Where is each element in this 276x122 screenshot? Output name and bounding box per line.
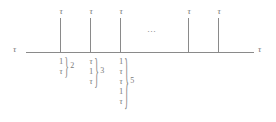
tick-mark-1	[60, 18, 61, 53]
group-3-count: 3	[100, 67, 104, 75]
group-3-symbol-1: τ	[88, 56, 94, 66]
group-3-brace-glyph: }	[94, 53, 99, 90]
timeline-figure: τ τ ⋯ τττττ 1τ}2τ1τ}31ττ1τ}5	[0, 0, 276, 122]
ellipsis: ⋯	[147, 28, 158, 37]
group-5-symbol-2: τ	[118, 66, 124, 76]
tick-label-3: τ	[119, 7, 122, 16]
group-5-brace-glyph: }	[124, 50, 129, 111]
group-5-symbol-4: 1	[118, 86, 124, 96]
group-2: 1τ}2	[58, 56, 74, 76]
tick-mark-2	[90, 18, 91, 53]
group-2-brace-glyph: }	[64, 54, 69, 78]
tick-label-1: τ	[59, 7, 62, 16]
group-5: 1ττ1τ}5	[118, 56, 134, 106]
group-3-symbol-3: τ	[88, 76, 94, 86]
group-5-symbol-5: τ	[118, 96, 124, 106]
axis-right-label: τ	[258, 45, 261, 54]
tick-label-5: τ	[217, 7, 220, 16]
group-3-brace: }	[94, 66, 99, 77]
group-2-count: 2	[70, 62, 74, 70]
axis-left-label: τ	[13, 45, 16, 54]
group-3: τ1τ}3	[88, 56, 104, 86]
tick-mark-5	[218, 18, 219, 53]
group-5-count: 5	[130, 77, 134, 85]
tick-mark-4	[188, 18, 189, 53]
tick-label-2: τ	[89, 7, 92, 16]
tick-mark-3	[120, 18, 121, 53]
group-5-brace: }	[124, 76, 129, 87]
tick-label-4: τ	[187, 7, 190, 16]
group-2-brace: }	[64, 61, 69, 72]
group-5-symbol-1: 1	[118, 56, 124, 66]
